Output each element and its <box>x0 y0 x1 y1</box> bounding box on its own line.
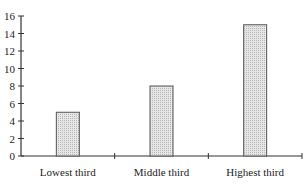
y-tick-label: 2 <box>10 133 16 145</box>
y-tick-label: 6 <box>10 98 16 110</box>
x-category-label: Middle third <box>134 166 190 178</box>
bar-highest-third <box>244 25 267 156</box>
y-tick-label: 10 <box>4 63 16 75</box>
y-tick-label: 4 <box>10 115 16 127</box>
x-axis-labels: Lowest thirdMiddle thirdHighest third <box>40 166 285 178</box>
bar-middle-third <box>150 86 173 156</box>
y-tick-label: 0 <box>10 150 16 162</box>
y-tick-label: 16 <box>4 10 16 22</box>
y-tick-label: 8 <box>10 80 16 92</box>
x-category-label: Highest third <box>226 166 284 178</box>
x-category-label: Lowest third <box>40 166 96 178</box>
y-tick-label: 14 <box>4 28 16 40</box>
bar-lowest-third <box>56 112 79 156</box>
bar-chart: 0246810121416 Lowest thirdMiddle thirdHi… <box>0 0 305 185</box>
bars <box>56 25 266 156</box>
y-tick-label: 12 <box>4 45 15 57</box>
